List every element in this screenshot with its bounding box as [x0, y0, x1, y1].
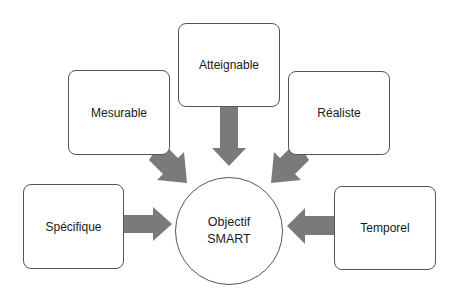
- box-specifique: Spécifique: [23, 184, 124, 269]
- box-realiste: Réaliste: [288, 71, 390, 155]
- label-mesurable: Mesurable: [91, 106, 147, 120]
- box-mesurable: Mesurable: [68, 70, 170, 155]
- label-atteignable: Atteignable: [199, 58, 259, 72]
- arrow-specifique: [123, 207, 172, 241]
- box-atteignable: Atteignable: [178, 23, 280, 107]
- center-line1: Objectif: [208, 214, 250, 231]
- center-line2: SMART: [207, 231, 251, 248]
- label-temporel: Temporel: [360, 221, 409, 235]
- label-realiste: Réaliste: [317, 106, 360, 120]
- arrow-atteignable: [212, 107, 246, 166]
- label-specifique: Spécifique: [45, 220, 101, 234]
- center-objectif-smart: Objectif SMART: [175, 177, 283, 285]
- box-temporel: Temporel: [334, 186, 436, 270]
- arrow-temporel: [287, 208, 334, 244]
